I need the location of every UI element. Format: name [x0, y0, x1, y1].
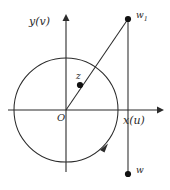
point-z-label: z [76, 72, 81, 81]
complex-plane-figure: y(v) x(u) O z w1 w [0, 0, 170, 190]
ray-origin-to-w1 [66, 19, 128, 110]
point-w1-label: w1 [136, 11, 148, 22]
point-z-dot [77, 82, 83, 88]
point-w1-dot [125, 16, 131, 22]
x-axis-label: x(u) [123, 115, 145, 126]
y-axis-label: y(v) [29, 16, 50, 27]
figure-canvas [0, 0, 170, 190]
x-axis-arrowhead-icon [157, 107, 164, 114]
origin-label: O [57, 113, 65, 123]
y-axis-arrowhead-icon [63, 14, 70, 21]
point-w1-label-subscript: 1 [144, 15, 148, 23]
point-w1-label-base: w [136, 10, 144, 20]
point-w-label: w [136, 166, 144, 175]
point-w-dot [125, 171, 131, 177]
